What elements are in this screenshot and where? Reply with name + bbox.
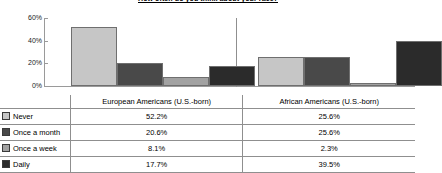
table-row: Once a week8.1%2.3%	[0, 141, 415, 157]
bar-once-a-month-group-2	[304, 57, 350, 86]
legend-label: Daily	[13, 160, 30, 169]
table-cell-european-americans: 52.2%	[70, 109, 243, 125]
table-row: Never52.2%25.6%	[0, 109, 415, 125]
bar-never-group-2	[258, 57, 304, 86]
legend-label: Once a month	[13, 128, 60, 137]
legend-label: Never	[13, 112, 33, 121]
table-header-row: European Americans (U.S.-born) African A…	[0, 95, 415, 109]
table-header-blank	[0, 95, 70, 109]
table-row: Once a month20.6%25.6%	[0, 125, 415, 141]
table-cell-african-americans: 39.5%	[243, 157, 415, 173]
legend-label: Once a week	[13, 144, 57, 153]
table-cell-african-americans: 2.3%	[243, 141, 415, 157]
bar-once-a-week-group-2	[350, 83, 396, 86]
legend-item-once-a-week: Once a week	[0, 141, 70, 157]
bar-daily-group-2	[396, 41, 442, 86]
legend-swatch-icon	[2, 112, 10, 120]
y-axis-tick-label: 40%	[0, 37, 42, 44]
table-header-european-americans: European Americans (U.S.-born)	[70, 95, 243, 109]
table-cell-european-americans: 8.1%	[70, 141, 243, 157]
table-cell-european-americans: 17.7%	[70, 157, 243, 173]
legend-item-never: Never	[0, 109, 70, 125]
legend-item-daily: Daily	[0, 157, 70, 173]
y-axis-tick-label-text: 20%	[2, 59, 42, 66]
table-row: Daily17.7%39.5%	[0, 157, 415, 173]
bar-daily-group-1	[209, 66, 255, 86]
chart-figure: How often do you think about your race? …	[0, 0, 416, 161]
legend-item-once-a-month: Once a month	[0, 125, 70, 141]
y-axis-tick-label-text: 60%	[2, 14, 42, 21]
table-cell-african-americans: 25.6%	[243, 125, 415, 141]
plot-area: 60%40%20%0%	[0, 6, 416, 95]
legend-swatch-icon	[2, 128, 10, 136]
table-header-african-americans: African Americans (U.S.-born)	[243, 95, 415, 109]
x-axis-line	[44, 86, 415, 87]
chart-title: How often do you think about your race?	[0, 0, 416, 2]
table-cell-european-americans: 20.6%	[70, 125, 243, 141]
y-axis-tick-label: 60%	[0, 14, 42, 21]
table-body: Never52.2%25.6%Once a month20.6%25.6%Onc…	[0, 109, 415, 173]
y-axis-tick-label-text: 0%	[2, 82, 42, 89]
y-axis-tick-label-text: 40%	[2, 37, 42, 44]
data-table: European Americans (U.S.-born) African A…	[0, 95, 415, 173]
bar-never-group-1	[71, 27, 117, 86]
bar-series-container	[44, 18, 415, 86]
table-cell-african-americans: 25.6%	[243, 109, 415, 125]
y-axis-tick-label: 20%	[0, 59, 42, 66]
bar-once-a-month-group-1	[117, 63, 163, 86]
y-axis-tick-label: 0%	[0, 82, 42, 89]
y-axis-tick	[44, 86, 48, 87]
bar-once-a-week-group-1	[163, 77, 209, 86]
legend-swatch-icon	[2, 160, 10, 168]
legend-swatch-icon	[2, 144, 10, 152]
